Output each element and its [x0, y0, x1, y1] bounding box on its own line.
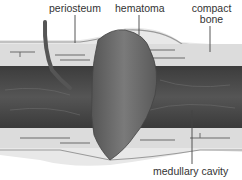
bone-illustration — [0, 0, 242, 180]
label-compact-bone: compact bone — [189, 3, 234, 25]
label-periosteum: periosteum — [49, 3, 101, 14]
label-medullary-cavity: medullary cavity — [153, 166, 228, 177]
label-hematoma: hematoma — [115, 3, 165, 14]
fracture-diagram: periosteum hematoma compact bone medulla… — [0, 0, 242, 180]
label-compact-bone-line2: bone — [189, 14, 234, 25]
